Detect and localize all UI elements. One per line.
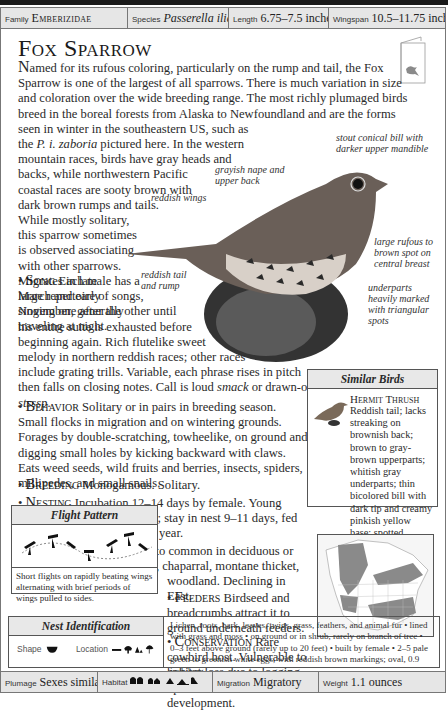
habitat-label: Habitat [102,678,127,687]
nest-description: Lichen, roots, bark, leaves, twigs, gras… [164,617,439,667]
cup-nest-icon [46,643,58,655]
flight-pattern-caption: Short flights on rapidly beating wings a… [12,567,157,607]
song-line: large repertoire of songs, [18,289,318,304]
song-section: Song Each male has a large repertoire of… [18,273,318,411]
header-info-bar: Family Emberizidae Species Passerella il… [0,7,446,29]
nest-shape-label: Shape [17,644,42,654]
annotation-underparts: underparts heavily marked with triangula… [368,282,443,326]
footer-info-bar: Plumage Sexes similar Habitat Migration … [0,671,446,693]
nest-identification-box: Nest Identification Shape Location Liche… [8,616,440,668]
intro-paragraph: Named for its rufous coloring, particula… [18,59,418,137]
intro-p1: amed for its rufous coloring, particular… [18,61,407,136]
length-value: 6.75–7.5 inches [260,11,329,26]
song-line: melody in northern reddish races; other … [18,350,318,365]
nest-identification-header: Nest Identification [9,617,163,636]
call-smack: smack [217,380,248,394]
intro-text-fragment: the [18,137,37,151]
song-line: singing one after the other until [18,304,318,319]
weight-label: Weight [323,679,348,688]
nest-identification-left: Nest Identification Shape Location [9,617,164,667]
migration-label: Migration [217,679,250,688]
migration-cell: Migration Migratory [213,672,319,692]
nest-location-label: Location [76,644,108,654]
song-line: his entire suite is exhausted before [18,320,318,335]
plumage-cell: Plumage Sexes similar [1,672,98,692]
bullet [18,274,26,288]
drop-initial: N [18,58,30,75]
annotation-nape: grayish nape and upper back [215,164,295,186]
similar-birds-box: Similar Birds Hermit Thrush Reddish tail… [307,369,438,507]
family-label: Family [5,15,29,24]
bullet [167,591,175,605]
bullet [18,400,26,414]
behavior-heading: Behavior [26,398,79,414]
similar-birds-header: Similar Birds [308,370,437,389]
breeding-heading: Breeding [26,476,80,492]
species-page: Fox Sparrow Named for its rufous colorin… [0,29,446,671]
page-title: Fox Sparrow [18,35,152,62]
song-line: beginning again. Rich flutelike sweet [18,335,318,350]
song-heading: Song [26,272,56,288]
bullet [18,478,26,492]
flight-pattern-box: Flight Pattern Short flights on rapidly … [11,505,158,594]
plumage-value: Sexes similar [40,675,98,690]
wingspan-value: 10.5–11.75 inches [372,11,445,26]
flight-pattern-diagram [12,525,157,563]
weight-cell: Weight 1.1 ounces [319,672,445,692]
wingspan-cell: Wingspan 10.5–11.75 inches [329,8,445,28]
family-cell: Family Emberizidae [1,8,128,28]
nest-location-icons [112,642,155,656]
plumage-label: Plumage [5,679,37,688]
similar-bird-name: Hermit Thrush [350,393,433,405]
nest-icons-row: Shape Location [9,636,163,662]
breeding-section: Breeding Monogamous. Solitary. [18,477,308,493]
migration-value: Migratory [253,675,302,690]
wingspan-label: Wingspan [333,15,369,24]
song-text: then falls on closing notes. Call is lou… [18,380,217,394]
annotation-bill: stout conical bill with darker upper man… [336,132,436,154]
song-line: Song Each male has a [18,273,318,289]
hermit-thrush-icon [312,393,350,433]
habitat-cell: Habitat [98,672,213,692]
annotation-wings: reddish wings [151,192,211,203]
song-line: include grating trills. Variable, each p… [18,365,318,380]
annotation-breast: large rufous to brown spot on central br… [374,236,442,269]
habitat-icons [130,675,200,685]
species-cell: Species Passerella iliaca [128,8,229,28]
length-label: Length [233,15,257,24]
top-rule [0,0,448,5]
family-value: Emberizidae [32,11,92,26]
feeders-heading: Feeders [175,589,221,605]
weight-value: 1.1 ounces [351,675,402,690]
song-text: Each male has a [58,274,139,288]
flight-pattern-header: Flight Pattern [12,506,157,525]
species-label: Species [132,15,160,24]
breeding-text: Monogamous. Solitary. [82,478,200,492]
subspecies-name: P. i. zaboria [37,137,98,151]
length-cell: Length 6.75–7.5 inches [229,8,329,28]
species-value: Passerella iliaca [163,11,229,26]
